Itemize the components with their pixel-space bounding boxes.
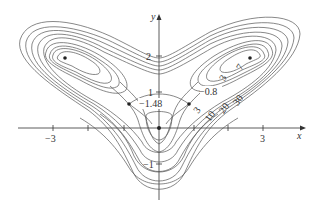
- right-max-point: [248, 56, 252, 60]
- contour-label-3-lower: 3: [191, 105, 203, 115]
- left-saddle-point: [127, 102, 131, 106]
- contour-label-neg148: −1.48: [139, 98, 162, 109]
- right-saddle-point: [187, 102, 191, 106]
- x-tick-label-3: 3: [260, 133, 265, 144]
- y-tick-label-1: 1: [148, 87, 153, 98]
- x-axis-label: x: [296, 130, 302, 141]
- x-tick-label-neg3: −3: [45, 133, 56, 144]
- contour-label-3-upper: 3: [217, 73, 229, 83]
- left-max-point: [63, 56, 67, 60]
- contour-label-10: 10: [202, 109, 217, 124]
- contour-label-neg08: −0.8: [199, 86, 217, 97]
- y-tick-label-2: 2: [146, 51, 151, 62]
- contour-label-20: 20: [216, 101, 231, 116]
- y-axis-arrow-icon: [157, 14, 162, 20]
- contour-plot: y x −3 3 2 1 −1 −1.48 −0.8 3 7 3 10 20 3…: [0, 0, 319, 208]
- y-tick-label-neg1: −1: [143, 159, 154, 170]
- origin-point: [157, 126, 161, 130]
- y-axis-label: y: [150, 11, 156, 22]
- critical-points: [63, 56, 252, 130]
